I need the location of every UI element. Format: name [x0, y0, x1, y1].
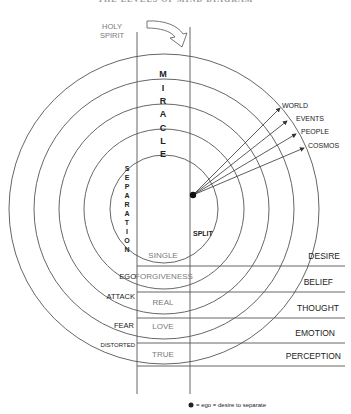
svg-text:SINGLE: SINGLE: [148, 251, 177, 260]
svg-text:WORLD: WORLD: [282, 102, 308, 109]
levels-of-mind-diagram: HOLY SPIRIT M I R A C L E S E P A R A T …: [0, 0, 351, 414]
svg-text:C: C: [160, 123, 167, 133]
svg-text:THOUGHT: THOUGHT: [297, 303, 339, 313]
holy-spirit-label-2: SPIRIT: [100, 31, 125, 40]
left-column-labels: EGO ATTACK FEAR DISTORTED: [101, 272, 137, 348]
svg-text:A: A: [124, 210, 129, 217]
svg-text:P: P: [125, 183, 130, 190]
svg-text:PERCEPTION: PERCEPTION: [286, 351, 341, 361]
svg-text:I: I: [162, 83, 165, 93]
svg-text:FORGIVENESS: FORGIVENESS: [135, 272, 193, 281]
svg-text:L: L: [160, 136, 166, 146]
separation-word: S E P A R A T I O N: [124, 165, 130, 253]
legend-text: = ego = desire to separate: [196, 402, 267, 408]
projection-arrows: [193, 108, 304, 195]
svg-text:EGO: EGO: [119, 272, 136, 281]
svg-text:ATTACK: ATTACK: [107, 292, 135, 301]
svg-text:REAL: REAL: [153, 298, 174, 307]
svg-text:T: T: [125, 219, 130, 226]
svg-text:A: A: [160, 109, 167, 119]
svg-text:COSMOS: COSMOS: [308, 142, 339, 149]
svg-text:M: M: [159, 69, 167, 79]
holy-spirit-label-1: HOLY: [102, 22, 122, 31]
svg-text:N: N: [124, 246, 129, 253]
level-labels: DESIRE BELIEF THOUGHT EMOTION PERCEPTION: [286, 251, 341, 361]
svg-text:DISTORTED: DISTORTED: [101, 342, 136, 348]
svg-text:R: R: [160, 96, 167, 106]
svg-text:O: O: [124, 237, 130, 244]
svg-text:S: S: [125, 165, 130, 172]
holy-spirit-arrow-icon: [147, 21, 187, 47]
split-label: SPLIT: [193, 230, 214, 237]
legend-dot-icon: [189, 403, 194, 408]
svg-text:TRUE: TRUE: [152, 350, 174, 359]
svg-text:LOVE: LOVE: [152, 322, 173, 331]
svg-text:PEOPLE: PEOPLE: [301, 128, 329, 135]
svg-text:FEAR: FEAR: [114, 321, 135, 330]
ego-dot-icon: [190, 192, 196, 198]
svg-text:I: I: [126, 228, 128, 235]
svg-text:A: A: [124, 192, 129, 199]
svg-text:R: R: [124, 201, 129, 208]
miracle-word: M I R A C L E: [159, 69, 167, 159]
svg-text:E: E: [125, 174, 130, 181]
projection-labels: WORLD EVENTS PEOPLE COSMOS: [282, 102, 339, 149]
svg-text:E: E: [160, 149, 166, 159]
svg-text:BELIEF: BELIEF: [304, 277, 333, 287]
svg-text:EMOTION: EMOTION: [295, 328, 335, 338]
svg-text:EVENTS: EVENTS: [296, 115, 324, 122]
svg-text:DESIRE: DESIRE: [308, 251, 340, 261]
